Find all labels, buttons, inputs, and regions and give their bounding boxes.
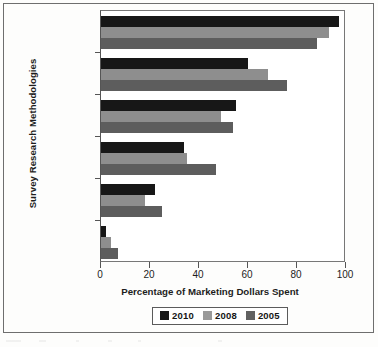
bar-other-2010[interactable] xyxy=(101,226,106,237)
bar-mail-intercept-2008[interactable] xyxy=(101,195,145,206)
bar-other-2008[interactable] xyxy=(101,237,111,248)
bar-group xyxy=(101,184,344,217)
bar-mail-2010[interactable] xyxy=(101,142,184,153)
bar-in-person-2008[interactable] xyxy=(101,111,221,122)
bar-group xyxy=(101,16,344,49)
x-axis-title: Percentage of Marketing Dollars Spent xyxy=(60,286,360,297)
bar-mail-2005[interactable] xyxy=(101,164,216,175)
x-tick-mark xyxy=(247,262,248,268)
y-axis-title: Survey Research Methodologies xyxy=(27,39,38,229)
bar-telephone-2010[interactable] xyxy=(101,58,248,69)
bar-telephone-2008[interactable] xyxy=(101,69,268,80)
legend-item[interactable]: 2005 xyxy=(246,310,280,321)
x-tick-mark xyxy=(149,262,150,268)
bar-mail-intercept-2005[interactable] xyxy=(101,206,162,217)
bar-mail-2008[interactable] xyxy=(101,153,187,164)
legend-swatch-2010 xyxy=(160,311,169,320)
x-tick-label-100: 100 xyxy=(325,269,365,280)
legend-label-2005: 2005 xyxy=(258,310,280,321)
bar-online-2005[interactable] xyxy=(101,38,317,49)
scan-artifact xyxy=(6,340,372,342)
legend-swatch-2005 xyxy=(246,311,255,320)
x-tick-label-20: 20 xyxy=(129,269,169,280)
bar-telephone-2005[interactable] xyxy=(101,80,287,91)
bar-in-person-2005[interactable] xyxy=(101,122,233,133)
legend-swatch-2008 xyxy=(203,311,212,320)
x-tick-mark xyxy=(198,262,199,268)
x-tick-label-0: 0 xyxy=(80,269,120,280)
bar-group xyxy=(101,100,344,133)
x-tick-label-80: 80 xyxy=(276,269,316,280)
bar-group xyxy=(101,58,344,91)
legend-label-2010: 2010 xyxy=(172,310,194,321)
legend-label-2008: 2008 xyxy=(215,310,237,321)
plot-area xyxy=(100,10,345,262)
legend-item[interactable]: 2010 xyxy=(160,310,194,321)
bar-mail-intercept-2010[interactable] xyxy=(101,184,155,195)
x-tick-label-60: 60 xyxy=(227,269,267,280)
x-tick-mark xyxy=(345,262,346,268)
chart-figure: Survey Research Methodologies OnlineTele… xyxy=(0,0,378,347)
x-tick-label-40: 40 xyxy=(178,269,218,280)
bar-online-2008[interactable] xyxy=(101,27,329,38)
bar-other-2005[interactable] xyxy=(101,248,118,259)
x-tick-mark xyxy=(296,262,297,268)
bar-group xyxy=(101,226,344,259)
bar-online-2010[interactable] xyxy=(101,16,339,27)
bar-in-person-2010[interactable] xyxy=(101,100,236,111)
chart-legend: 2010 2008 2005 xyxy=(152,307,288,325)
x-tick-mark xyxy=(100,262,101,268)
legend-item[interactable]: 2008 xyxy=(203,310,237,321)
bar-group xyxy=(101,142,344,175)
